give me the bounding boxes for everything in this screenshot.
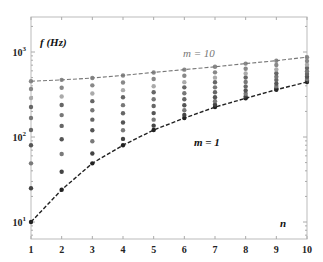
y-tick-label: 102 <box>13 130 27 143</box>
data-point <box>90 91 94 95</box>
y-tick-label: 101 <box>13 215 27 228</box>
data-point <box>59 86 63 90</box>
data-point <box>29 105 33 109</box>
axis-ticks <box>31 17 307 239</box>
x-tick-label: 10 <box>302 244 312 255</box>
data-point <box>59 94 63 98</box>
x-tick-label: 2 <box>59 244 64 255</box>
data-point <box>213 85 217 89</box>
x-tick-label: 5 <box>151 244 156 255</box>
data-point <box>151 104 155 108</box>
data-point <box>182 85 186 89</box>
data-point <box>151 77 155 81</box>
m-1-annotation: m = 1 <box>194 136 220 148</box>
data-point <box>90 128 94 132</box>
m-10-annotation: m = 10 <box>183 47 215 59</box>
data-point <box>90 99 94 103</box>
data-point <box>274 63 278 67</box>
data-point <box>243 84 247 88</box>
data-point <box>90 83 94 87</box>
x-tick-label: 8 <box>243 244 248 255</box>
data-point <box>59 103 63 107</box>
data-point <box>182 103 186 107</box>
harmonic-frequency-chart: 12345678910 101102103 f (Hz) n m = 10 m … <box>0 0 323 262</box>
data-point <box>90 117 94 121</box>
data-point <box>213 90 217 94</box>
data-point <box>182 113 186 117</box>
data-point <box>121 128 125 132</box>
data-points <box>29 55 309 224</box>
data-point <box>151 117 155 121</box>
data-point <box>59 124 63 128</box>
x-tick-label: 4 <box>121 244 126 255</box>
data-point <box>29 128 33 132</box>
data-point <box>29 143 33 147</box>
x-tick-label: 3 <box>90 244 95 255</box>
curve-m-10 <box>31 57 307 81</box>
data-point <box>90 139 94 143</box>
data-point <box>90 108 94 112</box>
data-point <box>213 99 217 103</box>
data-point <box>29 96 33 100</box>
data-point <box>151 111 155 115</box>
y-tick-labels: 101102103 <box>13 45 27 228</box>
data-point <box>151 84 155 88</box>
data-point <box>243 71 247 75</box>
x-tick-label: 7 <box>213 244 218 255</box>
data-point <box>29 87 33 91</box>
data-point <box>59 113 63 117</box>
data-point <box>213 80 217 84</box>
data-point <box>59 152 63 156</box>
data-point <box>121 137 125 141</box>
dashed-curves <box>31 57 307 222</box>
data-point <box>59 137 63 141</box>
data-point <box>151 123 155 127</box>
x-tick-label: 1 <box>29 244 34 255</box>
x-tick-labels: 12345678910 <box>29 244 313 255</box>
x-axis-label: n <box>280 217 286 229</box>
data-point <box>213 95 217 99</box>
data-point <box>29 186 33 190</box>
data-point <box>182 80 186 84</box>
plot-border <box>31 17 307 239</box>
data-point <box>182 74 186 78</box>
data-point <box>90 151 94 155</box>
data-point <box>121 111 125 115</box>
data-point <box>213 75 217 79</box>
x-tick-label: 9 <box>274 244 279 255</box>
data-point <box>243 75 247 79</box>
data-point <box>274 71 278 75</box>
data-point <box>151 90 155 94</box>
data-point <box>121 95 125 99</box>
data-point <box>243 67 247 71</box>
data-point <box>182 91 186 95</box>
curve-m-1 <box>31 82 307 222</box>
data-point <box>182 97 186 101</box>
data-point <box>59 170 63 174</box>
y-tick-label: 103 <box>13 45 27 58</box>
data-point <box>274 67 278 71</box>
data-point <box>305 59 309 63</box>
data-point <box>29 116 33 120</box>
data-point <box>121 103 125 107</box>
data-point <box>29 161 33 165</box>
x-tick-label: 6 <box>182 244 187 255</box>
data-point <box>243 80 247 84</box>
data-point <box>182 108 186 112</box>
data-point <box>121 80 125 84</box>
data-point <box>213 70 217 74</box>
plot-frame <box>31 17 307 239</box>
y-axis-label: f (Hz) <box>40 36 67 49</box>
data-point <box>243 88 247 92</box>
data-point <box>151 97 155 101</box>
data-point <box>121 88 125 92</box>
data-point <box>121 120 125 124</box>
